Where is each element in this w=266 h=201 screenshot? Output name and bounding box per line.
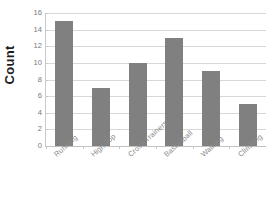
y-axis-tick-label: 2 (28, 124, 42, 134)
chart-title (60, 0, 240, 3)
gridline (46, 30, 266, 31)
bar[interactable] (55, 21, 73, 146)
y-axis-tick-mark (45, 30, 48, 31)
y-axis-tick-mark (45, 146, 48, 147)
y-axis-tick-labels: 0246810121416 (26, 13, 42, 146)
y-axis-tick-mark (45, 46, 48, 47)
gridline (46, 80, 266, 81)
gridline (46, 96, 266, 97)
y-axis-tick-label: 12 (28, 41, 42, 51)
y-axis-tick-mark (45, 63, 48, 64)
y-axis-tick-label: 16 (28, 8, 42, 18)
x-axis-tick-mark (119, 146, 120, 149)
gridline (46, 63, 266, 64)
y-axis-tick-label: 0 (28, 141, 42, 151)
y-axis-tick-mark (45, 13, 48, 14)
y-axis-tick-mark (45, 129, 48, 130)
x-axis-tick-mark (156, 146, 157, 149)
gridline (46, 46, 266, 47)
y-axis-tick-label: 14 (28, 25, 42, 35)
y-axis-tick-mark (45, 96, 48, 97)
bar[interactable] (165, 38, 183, 146)
y-axis-title: Count (2, 30, 18, 100)
x-axis-tick-mark (229, 146, 230, 149)
bar-chart: Count 0246810121416 RunningHigh TopCross… (0, 0, 266, 201)
gridline (46, 113, 266, 114)
y-axis-tick-mark (45, 80, 48, 81)
gridline (46, 13, 266, 14)
y-axis-tick-label: 10 (28, 58, 42, 68)
x-axis-tick-mark (193, 146, 194, 149)
x-axis-tick-mark (83, 146, 84, 149)
y-axis-tick-label: 8 (28, 75, 42, 85)
y-axis-tick-label: 6 (28, 91, 42, 101)
y-axis-tick-mark (45, 113, 48, 114)
y-axis-tick-label: 4 (28, 108, 42, 118)
